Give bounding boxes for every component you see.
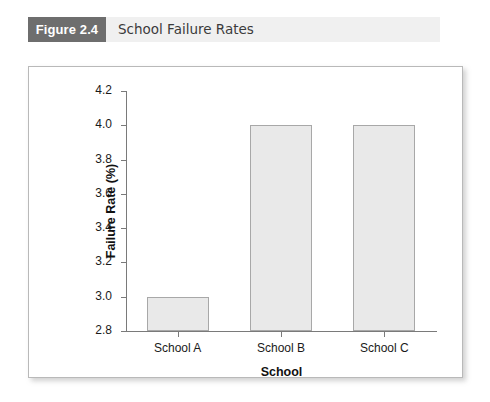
- y-tick-mark: 4.0: [121, 125, 126, 126]
- figure-number-badge: Figure 2.4: [28, 17, 106, 42]
- x-tick-label: School B: [257, 341, 305, 355]
- y-tick-mark: 2.8: [121, 331, 126, 332]
- y-tick-label: 4.2: [95, 83, 112, 97]
- y-tick-mark: 3.6: [121, 194, 126, 195]
- bar: [250, 125, 312, 331]
- x-tick-mark: [384, 332, 385, 337]
- x-tick-label: School A: [154, 341, 201, 355]
- x-tick-label: School C: [360, 341, 409, 355]
- y-tick-mark: 3.8: [121, 160, 126, 161]
- x-tick-mark: [178, 332, 179, 337]
- y-tick-mark: 4.2: [121, 91, 126, 92]
- y-tick-label: 2.8: [95, 323, 112, 337]
- x-tick-mark: [281, 332, 282, 337]
- bar: [353, 125, 415, 331]
- y-tick-mark: 3.2: [121, 262, 126, 263]
- y-tick-mark: 3.4: [121, 228, 126, 229]
- x-axis-title: School: [126, 365, 437, 379]
- y-tick-label: 3.0: [95, 289, 112, 303]
- y-tick-label: 4.0: [95, 117, 112, 131]
- y-axis-line: [126, 91, 127, 331]
- plot-area: 2.83.03.23.43.63.84.04.2 School ASchool …: [126, 91, 436, 331]
- bar: [147, 297, 209, 331]
- figure-title: School Failure Rates: [118, 17, 254, 42]
- y-axis-title: Failure Rate (%): [104, 164, 118, 258]
- figure-caption-header: Figure 2.4 School Failure Rates: [28, 17, 440, 42]
- chart-panel: 2.83.03.23.43.63.84.04.2 School ASchool …: [28, 66, 463, 378]
- y-tick-mark: 3.0: [121, 297, 126, 298]
